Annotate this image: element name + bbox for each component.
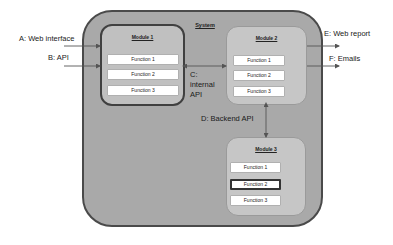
interface-c-line-1: C: xyxy=(190,70,215,80)
module-3[interactable]: Module 3 Function 1 Function 2 Function … xyxy=(226,137,306,216)
module-1-function-2[interactable]: Function 2 xyxy=(107,69,179,80)
module-1[interactable]: Module 1 Function 1 Function 2 Function … xyxy=(100,24,185,106)
module-3-function-3[interactable]: Function 3 xyxy=(230,195,281,206)
interface-c-line-2: internal xyxy=(190,80,215,90)
system-label: System xyxy=(190,22,220,28)
module-3-function-2-highlighted[interactable]: Function 2 xyxy=(230,179,281,190)
module-2[interactable]: Module 2 Function 1 Function 2 Function … xyxy=(226,26,307,105)
interface-c-label: C: internal API xyxy=(190,70,215,100)
module-3-function-1[interactable]: Function 1 xyxy=(230,162,281,173)
module-2-title: Module 2 xyxy=(227,35,306,41)
module-3-title: Module 3 xyxy=(227,146,305,152)
module-2-function-2[interactable]: Function 2 xyxy=(233,70,285,81)
interface-d-label: D: Backend API xyxy=(201,114,254,123)
interface-b-label: B: API xyxy=(48,53,69,62)
interface-c-line-3: API xyxy=(190,90,215,100)
interface-f-label: F: Emails xyxy=(329,54,360,63)
module-2-function-1[interactable]: Function 1 xyxy=(233,55,285,66)
interface-e-label: E: Web report xyxy=(324,29,370,38)
module-1-function-3[interactable]: Function 3 xyxy=(107,85,179,96)
module-1-function-1[interactable]: Function 1 xyxy=(107,54,179,65)
module-2-function-3[interactable]: Function 3 xyxy=(233,86,285,97)
interface-a-label: A: Web interface xyxy=(19,34,74,43)
module-1-title: Module 1 xyxy=(102,34,183,40)
